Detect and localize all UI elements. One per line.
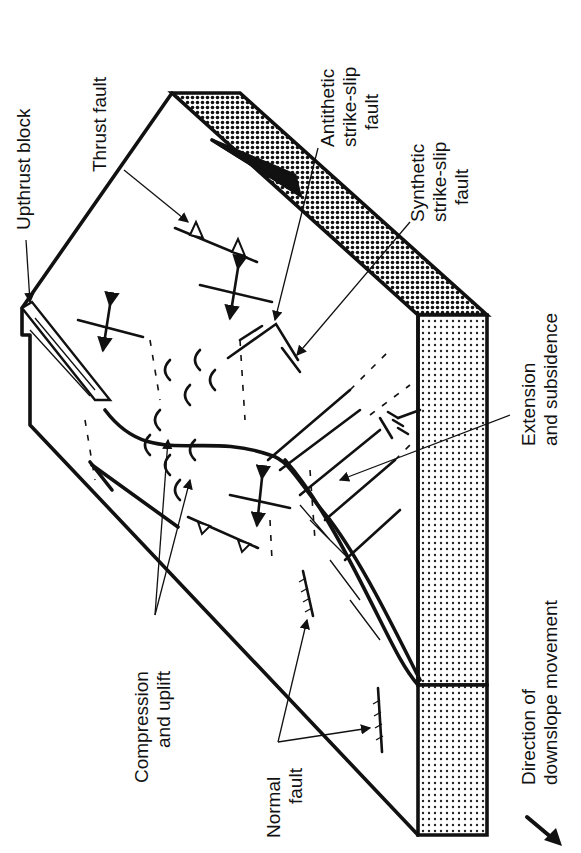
compression-axis-3	[230, 478, 290, 525]
label-antithetic-3: fault	[361, 93, 382, 130]
leader-normal-2	[278, 728, 370, 742]
label-antithetic-2: strike-slip	[339, 67, 360, 147]
downslope-arrows	[90, 140, 300, 527]
extension-zone-hatching	[268, 350, 415, 640]
label-compression-2: and uplift	[153, 670, 174, 748]
compression-axis-2	[200, 268, 272, 318]
label-synthetic-2: strike-slip	[429, 142, 450, 222]
label-normal-2: fault	[285, 767, 306, 804]
slide-scar	[105, 410, 420, 680]
leader-thrust	[124, 170, 188, 222]
label-extension-2: and subsidence	[540, 313, 561, 446]
block-front-face-upper	[418, 315, 487, 685]
label-direction-2: downslope movement	[540, 599, 561, 785]
label-extension-1: Extension	[518, 363, 539, 446]
normal-fault-2	[299, 571, 313, 616]
leader-upthrust	[26, 240, 30, 302]
slide-scar-inner	[285, 460, 418, 685]
label-normal-1: Normal	[263, 777, 284, 838]
compression-axis-1	[78, 305, 143, 350]
label-synthetic-1: Synthetic	[407, 144, 428, 222]
upthrust-block	[22, 302, 110, 400]
label-direction-1: Direction of	[518, 688, 539, 785]
bold-arrow-icon	[527, 817, 562, 846]
block-front-face-lower	[418, 685, 487, 835]
thrust-fault-upper	[175, 222, 257, 262]
strike-slip-antithetic	[228, 324, 300, 372]
normal-fault-3	[373, 688, 383, 752]
leader-normal-1	[278, 620, 307, 742]
label-thrust-fault: Thrust fault	[89, 76, 110, 172]
label-antithetic-1: Antithetic	[317, 69, 338, 147]
label-synthetic-3: fault	[451, 168, 472, 205]
normal-fault-1	[380, 410, 420, 438]
label-upthrust-block: Upthrust block	[13, 108, 34, 230]
thrust-fault-lower	[188, 517, 258, 552]
slump-block-diagram: Upthrust block Thrust fault Antithetic s…	[0, 0, 581, 853]
label-compression-1: Compression	[131, 671, 152, 783]
